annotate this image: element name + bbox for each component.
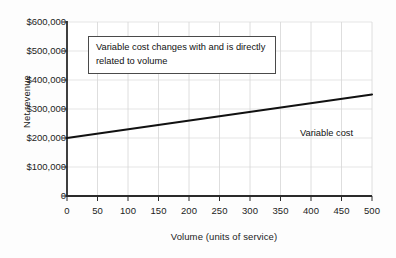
y-tick-label-500000: $500,000 <box>2 45 66 56</box>
y-tick-label-400000: $400,000 <box>2 74 66 85</box>
annotation-line-1: Variable cost changes with and is direct… <box>96 41 268 55</box>
y-tick-label-0: 0 <box>2 190 66 201</box>
y-tick-label-100000: $100,000 <box>2 161 66 172</box>
variable-cost-annotation: Variable cost changes with and is direct… <box>88 36 276 74</box>
x-axis-title: Volume (units of service) <box>64 231 384 242</box>
y-tick-label-300000: $300,000 <box>2 103 66 114</box>
variable-cost-series-label: Variable cost <box>300 128 353 138</box>
annotation-line-2: related to volume <box>96 55 268 69</box>
y-tick-label-600000: $600,000 <box>2 16 66 27</box>
chart-figure: Net revenue $600,000 $500,000 $400,000 $… <box>0 0 396 258</box>
y-tick-label-200000: $200,000 <box>2 132 66 143</box>
x-tick-label-500: 500 <box>352 205 392 216</box>
